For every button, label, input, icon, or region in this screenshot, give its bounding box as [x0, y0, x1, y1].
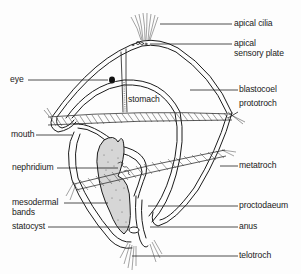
label-statocyst: statocyst	[12, 222, 45, 232]
label-stomach: stomach	[128, 95, 160, 105]
label-apical-cilia: apical cilia	[234, 19, 272, 29]
apical-cilia-tuft	[131, 13, 158, 40]
label-blastocoel: blastocoel	[239, 85, 277, 95]
prototroch-band	[44, 108, 245, 126]
leader-lines	[28, 24, 238, 256]
nerve-dotted	[124, 82, 125, 112]
label-telotroch: telotroch	[239, 251, 271, 261]
label-anus: anus	[239, 222, 257, 232]
label-metatroch: metatroch	[239, 161, 276, 171]
statocyst-vesicle	[129, 227, 139, 233]
label-apical-sensory-plate-line2: sensory plate	[234, 49, 284, 59]
label-prototroch: prototroch	[239, 99, 277, 109]
telotroch-cilia	[120, 240, 162, 270]
body-wall	[52, 40, 232, 117]
label-nephridium: nephridium	[12, 163, 54, 173]
label-mesodermal-bands-line2: bands	[12, 208, 35, 218]
proctodaeum	[136, 196, 149, 247]
label-proctodaeum: proctodaeum	[239, 201, 288, 211]
trochophore-diagram: apical cilia apical sensory plate eye st…	[0, 0, 301, 274]
label-eye: eye	[10, 75, 24, 85]
label-mouth: mouth	[11, 130, 34, 140]
